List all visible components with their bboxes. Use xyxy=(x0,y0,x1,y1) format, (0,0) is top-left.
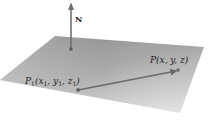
point-p-marker xyxy=(177,69,180,72)
normal-vector-label: N xyxy=(75,15,82,23)
point-p-label: P(x, y, z) xyxy=(150,56,188,65)
point-p1-marker xyxy=(77,89,80,92)
normal-base-point xyxy=(70,48,73,51)
plane-shading xyxy=(0,36,204,113)
point-p1-label: P1(x1, y1, z1) xyxy=(25,77,80,87)
diagram-canvas: N P1(x1, y1, z1) P(x, y, z) xyxy=(0,0,214,121)
